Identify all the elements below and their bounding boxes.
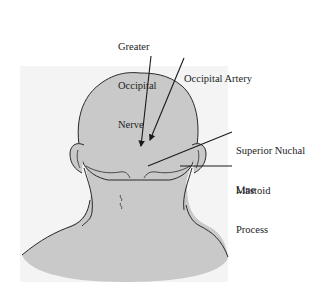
- label-line: Superior Nuchal: [236, 144, 305, 157]
- label-mastoid-process: Mastoid Process: [236, 158, 270, 262]
- label-greater-occipital-nerve: Greater Occipital Nerve: [118, 14, 156, 157]
- anatomy-figure: Greater Occipital Nerve Occipital Artery…: [0, 0, 322, 296]
- label-occipital-artery: Occipital Artery: [184, 46, 252, 111]
- label-line: Occipital: [118, 79, 156, 92]
- label-line: Mastoid: [236, 184, 270, 197]
- label-line: Process: [236, 223, 270, 236]
- label-line: Nerve: [118, 118, 156, 131]
- label-line: Occipital Artery: [184, 72, 252, 85]
- label-line: Greater: [118, 40, 156, 53]
